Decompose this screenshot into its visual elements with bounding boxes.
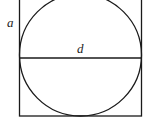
figure: a d xyxy=(0,0,148,129)
side-label: a xyxy=(7,15,14,30)
diameter-label: d xyxy=(77,41,84,56)
